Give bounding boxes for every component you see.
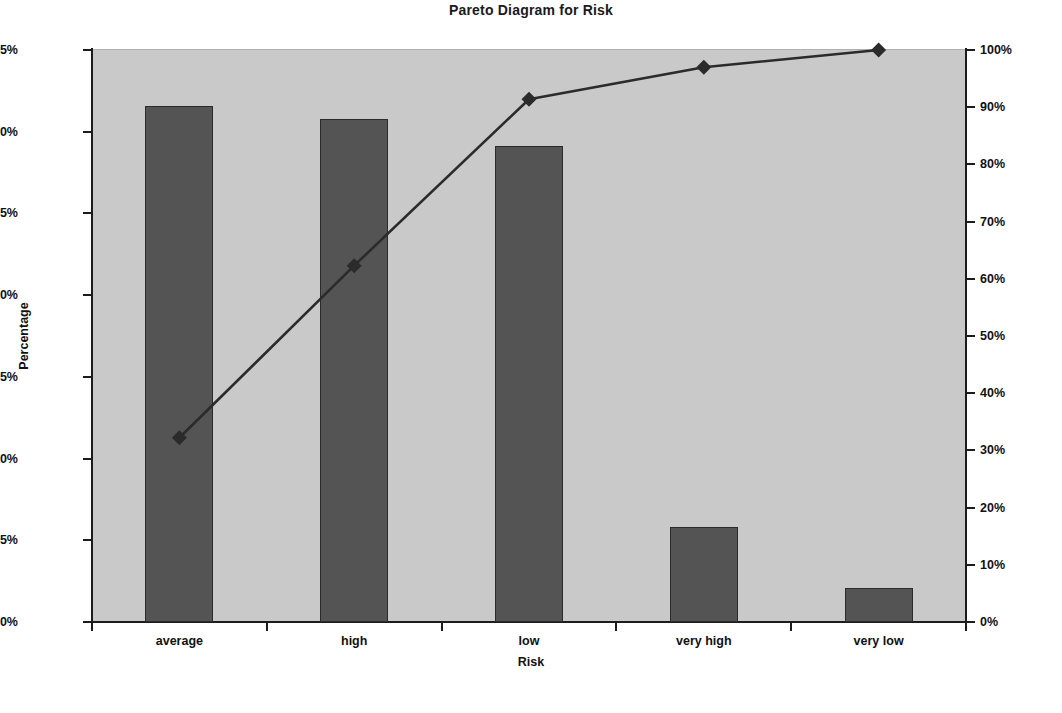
y-axis-right-tick xyxy=(966,163,975,165)
y-axis-right-tick xyxy=(966,449,975,451)
y-axis-right-tick xyxy=(966,392,975,394)
chart-title: Pareto Diagram for Risk xyxy=(0,2,1062,18)
y-axis-right-tick-label: 50% xyxy=(980,329,1005,343)
y-axis-left-tick xyxy=(83,294,92,296)
x-axis-tick xyxy=(91,622,93,631)
y-axis-right-tick-label: 10% xyxy=(980,558,1005,572)
y-axis-right-tick-label: 0% xyxy=(980,615,998,629)
x-axis-tick xyxy=(441,622,443,631)
x-axis-tick xyxy=(266,622,268,631)
y-axis-right-tick xyxy=(966,221,975,223)
y-axis-right-tick xyxy=(966,621,975,623)
y-axis-right-tick-label: 90% xyxy=(980,100,1005,114)
y-axis-right-tick xyxy=(966,564,975,566)
x-axis-title: Risk xyxy=(0,655,1062,669)
y-axis-left-tick xyxy=(83,539,92,541)
bar xyxy=(670,527,738,622)
y-axis-right-tick xyxy=(966,335,975,337)
y-axis-right-tick-label: 60% xyxy=(980,272,1005,286)
y-axis-left-tick xyxy=(83,458,92,460)
plot-top-edge xyxy=(92,49,966,50)
bar xyxy=(845,588,913,622)
x-axis-category-label: very high xyxy=(676,634,732,648)
y-axis-right-tick-label: 100% xyxy=(980,43,1012,57)
x-axis-tick xyxy=(965,622,967,631)
y-axis-left-line xyxy=(91,48,93,624)
y-axis-right-tick xyxy=(966,278,975,280)
x-axis-category-label: low xyxy=(519,634,540,648)
x-axis-tick xyxy=(790,622,792,631)
y-axis-left-tick xyxy=(83,49,92,51)
x-axis-tick xyxy=(615,622,617,631)
y-axis-right-tick-label: 80% xyxy=(980,157,1005,171)
pareto-chart: Pareto Diagram for Risk 0%5%10%15%20%25%… xyxy=(0,0,1062,713)
y-axis-right-tick xyxy=(966,106,975,108)
x-axis-category-label: high xyxy=(341,634,367,648)
y-axis-right-tick-label: 20% xyxy=(980,501,1005,515)
bar xyxy=(495,146,563,622)
y-axis-left-tick xyxy=(83,131,92,133)
y-axis-left-tick xyxy=(83,376,92,378)
y-axis-title: Percentage xyxy=(12,50,36,622)
y-axis-right-tick-label: 40% xyxy=(980,386,1005,400)
y-axis-right-tick-label: 70% xyxy=(980,215,1005,229)
y-axis-left-tick xyxy=(83,212,92,214)
bar xyxy=(145,106,213,622)
bar xyxy=(320,119,388,622)
y-axis-right-tick xyxy=(966,507,975,509)
y-axis-right-tick xyxy=(966,49,975,51)
x-axis-category-label: very low xyxy=(854,634,904,648)
y-axis-right-tick-label: 30% xyxy=(980,443,1005,457)
x-axis-category-label: average xyxy=(156,634,203,648)
y-axis-title-text: Percentage xyxy=(17,302,31,369)
